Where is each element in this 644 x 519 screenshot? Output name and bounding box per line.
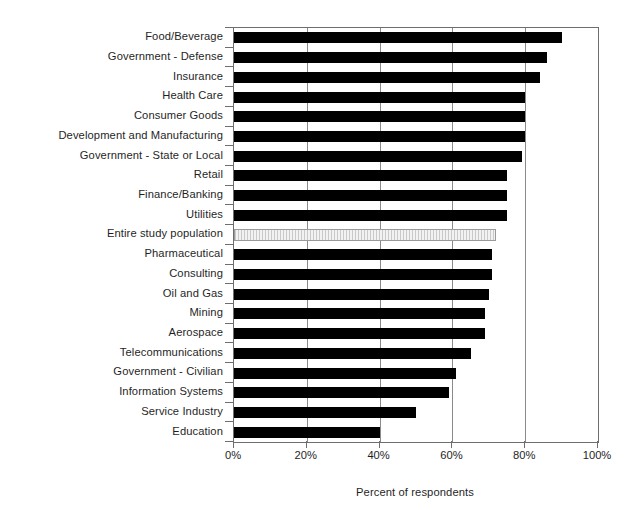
category-label: Development and Manufacturing bbox=[0, 126, 229, 146]
bar bbox=[234, 151, 522, 162]
category-label: Finance/Banking bbox=[0, 185, 229, 205]
bar bbox=[234, 427, 380, 438]
category-label: Consumer Goods bbox=[0, 106, 229, 126]
bar-row bbox=[234, 383, 598, 403]
category-label: Food/Beverage bbox=[0, 27, 229, 47]
bar bbox=[234, 269, 492, 280]
y-axis-tick bbox=[225, 66, 233, 67]
x-axis-tick-label: 60% bbox=[440, 450, 462, 461]
y-axis-tick bbox=[225, 185, 233, 186]
bar bbox=[234, 32, 562, 43]
bar-row bbox=[234, 48, 598, 68]
bar-row bbox=[234, 324, 598, 344]
category-label: Mining bbox=[0, 303, 229, 323]
plot-area bbox=[233, 27, 599, 443]
y-axis-tick bbox=[225, 264, 233, 265]
category-label: Oil and Gas bbox=[0, 283, 229, 303]
bar-row bbox=[234, 146, 598, 166]
bar bbox=[234, 289, 489, 300]
x-axis-tick-label: 40% bbox=[367, 450, 389, 461]
bar-highlighted bbox=[234, 229, 496, 241]
category-label: Utilities bbox=[0, 204, 229, 224]
y-axis-tick bbox=[225, 204, 233, 205]
bar bbox=[234, 170, 507, 181]
y-axis-tick bbox=[225, 283, 233, 284]
x-axis-tick bbox=[597, 441, 598, 448]
bar bbox=[234, 348, 471, 359]
bar-row bbox=[234, 344, 598, 364]
y-axis-tick bbox=[225, 441, 233, 442]
bar-row bbox=[234, 127, 598, 147]
x-axis-tick bbox=[306, 441, 307, 448]
x-axis-tick-labels: 0%20%40%60%80%100% bbox=[233, 450, 597, 468]
bar-row bbox=[234, 107, 598, 127]
bar bbox=[234, 72, 540, 83]
x-axis-tick bbox=[379, 441, 380, 448]
x-axis-title: Percent of respondents bbox=[233, 486, 597, 498]
bar bbox=[234, 407, 416, 418]
category-label: Health Care bbox=[0, 86, 229, 106]
bar bbox=[234, 52, 547, 63]
bar-row bbox=[234, 166, 598, 186]
bar-row bbox=[234, 284, 598, 304]
bar-row bbox=[234, 28, 598, 48]
category-label: Education bbox=[0, 421, 229, 441]
x-axis-tick bbox=[524, 441, 525, 448]
y-axis-tick bbox=[225, 303, 233, 304]
x-axis-tick-label: 20% bbox=[295, 450, 317, 461]
x-axis-ticks bbox=[233, 441, 599, 449]
y-axis-tick bbox=[225, 323, 233, 324]
category-label: Entire study population bbox=[0, 224, 229, 244]
y-axis-tick bbox=[225, 145, 233, 146]
bars-group bbox=[234, 28, 598, 442]
y-axis-ticks bbox=[225, 27, 233, 441]
bar-row bbox=[234, 186, 598, 206]
x-axis-tick bbox=[451, 441, 452, 448]
bar bbox=[234, 387, 449, 398]
bar-row bbox=[234, 87, 598, 107]
bar-chart-figure: Food/BeverageGovernment - DefenseInsuran… bbox=[0, 0, 644, 519]
bar-row bbox=[234, 205, 598, 225]
bar bbox=[234, 210, 507, 221]
bar bbox=[234, 328, 485, 339]
bar bbox=[234, 308, 485, 319]
x-axis-tick bbox=[233, 441, 234, 448]
category-label: Telecommunications bbox=[0, 343, 229, 363]
x-axis-tick-label: 80% bbox=[513, 450, 535, 461]
y-axis-tick bbox=[225, 421, 233, 422]
y-axis-tick bbox=[225, 402, 233, 403]
y-axis-tick bbox=[225, 165, 233, 166]
bar bbox=[234, 92, 525, 103]
category-label: Retail bbox=[0, 165, 229, 185]
category-axis: Food/BeverageGovernment - DefenseInsuran… bbox=[0, 27, 229, 441]
bar-row bbox=[234, 304, 598, 324]
bar bbox=[234, 368, 456, 379]
category-label: Insurance bbox=[0, 66, 229, 86]
y-axis-tick bbox=[225, 362, 233, 363]
bar-row bbox=[234, 403, 598, 423]
y-axis-tick bbox=[225, 342, 233, 343]
bar-row bbox=[234, 363, 598, 383]
category-label: Aerospace bbox=[0, 323, 229, 343]
y-axis-tick bbox=[225, 106, 233, 107]
y-axis-tick bbox=[225, 47, 233, 48]
category-label: Government - State or Local bbox=[0, 145, 229, 165]
bar-row bbox=[234, 67, 598, 87]
category-label: Government - Civilian bbox=[0, 362, 229, 382]
y-axis-tick bbox=[225, 86, 233, 87]
x-axis-tick-label: 0% bbox=[225, 450, 241, 461]
y-axis-tick bbox=[225, 126, 233, 127]
bar-row bbox=[234, 265, 598, 285]
category-label: Pharmaceutical bbox=[0, 244, 229, 264]
y-axis-tick bbox=[225, 244, 233, 245]
category-label: Information Systems bbox=[0, 382, 229, 402]
bar-row bbox=[234, 225, 598, 245]
y-axis-tick bbox=[225, 382, 233, 383]
y-axis-tick bbox=[225, 224, 233, 225]
bar-row bbox=[234, 245, 598, 265]
y-axis-tick bbox=[225, 27, 233, 28]
x-axis-tick-label: 100% bbox=[583, 450, 612, 461]
bar bbox=[234, 249, 492, 260]
category-label: Consulting bbox=[0, 264, 229, 284]
category-label: Service Industry bbox=[0, 402, 229, 422]
